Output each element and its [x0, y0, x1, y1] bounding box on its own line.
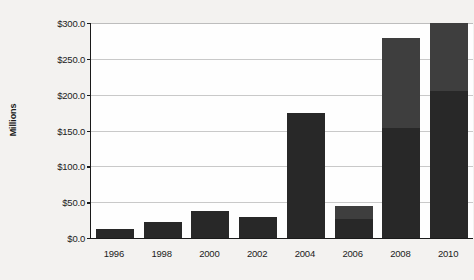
y-axis-tick-label: $250.0: [57, 53, 85, 64]
bar-segment[interactable]: [287, 113, 325, 238]
bars-layer: [91, 23, 473, 238]
bar-segment[interactable]: [335, 219, 373, 238]
y-axis-tick-label: $200.0: [57, 89, 85, 100]
bar-group[interactable]: [96, 229, 134, 238]
bar-segment[interactable]: [382, 38, 420, 128]
x-axis-tick-label: 2010: [438, 248, 458, 259]
y-axis-title-label: Millions: [8, 104, 18, 137]
x-axis-tick-label: 2000: [199, 248, 219, 259]
y-axis-tick-labels: $0.0$50.0$100.0$150.0$200.0$250.0$300.0: [26, 0, 89, 280]
y-axis-title: Millions: [0, 0, 26, 240]
y-axis-tick-label: $150.0: [57, 125, 85, 136]
bar-segment[interactable]: [382, 128, 420, 238]
y-axis-tick-label: $50.0: [62, 197, 85, 208]
bar-group[interactable]: [335, 206, 373, 238]
y-axis-tick-label: $300.0: [57, 18, 85, 29]
x-axis-tick-label: 2006: [342, 248, 362, 259]
bar-segment[interactable]: [191, 211, 229, 238]
bar-segment[interactable]: [144, 222, 182, 238]
y-axis-tick-mark: [87, 238, 91, 239]
bar-group[interactable]: [287, 113, 325, 238]
bar-segment[interactable]: [96, 229, 134, 238]
plot-area: [90, 23, 473, 239]
bar-group[interactable]: [144, 222, 182, 238]
bar-segment[interactable]: [430, 23, 468, 91]
bar-chart: Millions $0.0$50.0$100.0$150.0$200.0$250…: [0, 0, 474, 280]
bar-group[interactable]: [430, 23, 468, 238]
x-axis-tick-label: 2008: [390, 248, 410, 259]
x-axis-tick-label: 2004: [295, 248, 315, 259]
y-axis-tick-label: $0.0: [67, 233, 85, 244]
bar-segment[interactable]: [335, 206, 373, 219]
x-axis-tick-label: 1998: [151, 248, 171, 259]
bar-segment[interactable]: [430, 91, 468, 238]
x-axis-tick-label: 2002: [247, 248, 267, 259]
y-axis-tick-label: $100.0: [57, 161, 85, 172]
x-axis-tick-label: 1996: [104, 248, 124, 259]
bar-group[interactable]: [191, 211, 229, 238]
x-axis-tick-labels: 19961998200020022004200620082010: [90, 248, 472, 268]
bar-group[interactable]: [382, 38, 420, 238]
bar-segment[interactable]: [239, 217, 277, 238]
bar-group[interactable]: [239, 217, 277, 238]
